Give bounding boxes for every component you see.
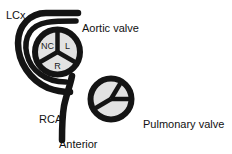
label-rca: RCA xyxy=(39,113,63,125)
label-anterior: Anterior xyxy=(59,138,98,150)
aortic-cusp-label-r: R xyxy=(54,61,61,71)
label-pulmonary-valve: Pulmonary valve xyxy=(143,118,224,130)
aortic-valve-group: NC L R xyxy=(35,30,80,75)
label-lcx: LCx xyxy=(6,9,26,21)
pulmonary-valve-group xyxy=(91,79,132,120)
aortic-cusp-label-nc: NC xyxy=(41,41,54,51)
label-aortic-valve: Aortic valve xyxy=(82,22,139,34)
valve-orientation-diagram: NC L R LCx Aortic valve RCA Pulmonary va… xyxy=(0,0,232,154)
aortic-cusp-label-l: L xyxy=(65,41,70,51)
diagram-canvas: NC L R LCx Aortic valve RCA Pulmonary va… xyxy=(0,0,232,154)
